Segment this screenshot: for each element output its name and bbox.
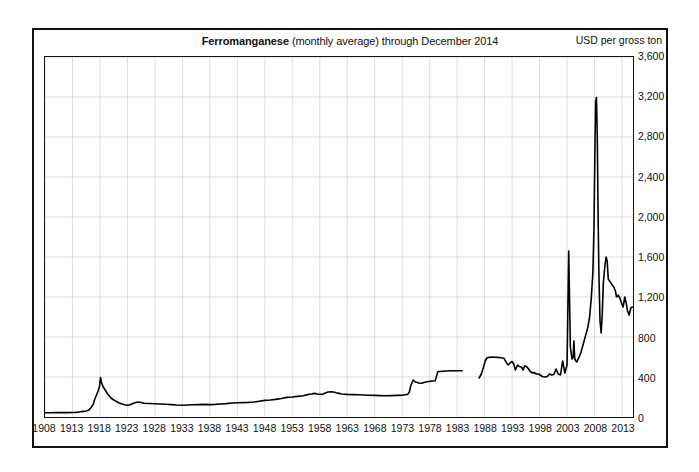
x-axis-tick-label: 1973 [391, 422, 414, 434]
chart-title-main: Ferromanganese [202, 35, 289, 47]
x-axis-tick-label: 2003 [556, 422, 579, 434]
chart-svg [45, 57, 633, 417]
x-axis-tick-label: 1998 [529, 422, 552, 434]
chart-header: Ferromanganese (monthly average) through… [34, 30, 666, 54]
data-series [45, 98, 632, 413]
x-axis-tick-label: 1908 [32, 422, 55, 434]
x-axis-tick-label: 1918 [87, 422, 110, 434]
x-axis-tick-label: 1968 [363, 422, 386, 434]
x-axis-tick-label: 1938 [198, 422, 221, 434]
x-axis-tick-label: 1943 [225, 422, 248, 434]
x-axis-tick-label: 1933 [170, 422, 193, 434]
gridlines [45, 57, 633, 417]
y-axis-tick-label: 400 [638, 372, 656, 384]
chart-frame: Ferromanganese (monthly average) through… [32, 28, 668, 448]
x-axis-tick-label: 1988 [473, 422, 496, 434]
unit-label: USD per gross ton [576, 34, 662, 46]
y-axis-tick-label: 3,200 [638, 90, 664, 102]
x-axis-tick-label: 1923 [115, 422, 138, 434]
y-axis-tick-label: 2,800 [638, 130, 664, 142]
x-axis-tick-label: 1958 [308, 422, 331, 434]
x-axis-tick-label: 1993 [501, 422, 524, 434]
page-title: Ferromanganese (monthly average) through… [34, 33, 666, 49]
y-axis-tick-label: 1,600 [638, 251, 664, 263]
x-axis-tick-label: 2013 [611, 422, 634, 434]
y-axis-tick-label: 3,600 [638, 50, 664, 62]
y-axis-tick-label: 800 [638, 332, 656, 344]
y-axis-tick-label: 2,000 [638, 211, 664, 223]
x-axis-tick-label: 1928 [143, 422, 166, 434]
y-axis-tick-label: 1,200 [638, 291, 664, 303]
x-axis-tick-label: 1948 [253, 422, 276, 434]
plot-canvas [44, 56, 634, 418]
y-axis-tick-label: 0 [638, 412, 644, 424]
x-axis-labels: 1908191319181923192819331938194319481953… [44, 420, 634, 440]
x-axis-tick-label: 1978 [418, 422, 441, 434]
x-axis-tick-label: 1963 [336, 422, 359, 434]
series-line [479, 98, 632, 378]
x-axis-tick-label: 2008 [584, 422, 607, 434]
y-axis-tick-label: 2,400 [638, 171, 664, 183]
chart-title-subtitle: (monthly average) through December 2014 [292, 35, 498, 47]
x-axis-tick-label: 1913 [60, 422, 83, 434]
y-axis-labels: 04008001,2001,6002,0002,4002,8003,2003,6… [635, 50, 669, 424]
plot-area [44, 56, 634, 418]
x-axis-tick-label: 1953 [280, 422, 303, 434]
x-axis-tick-label: 1983 [446, 422, 469, 434]
